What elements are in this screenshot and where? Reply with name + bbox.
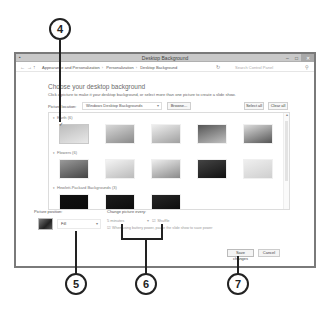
chevron-down-icon: ▾: [147, 217, 149, 224]
wallpaper-thumbnail[interactable]: ✓: [59, 124, 89, 144]
picture-location-dropdown[interactable]: Windows Desktop Backgrounds ▾: [82, 102, 162, 110]
wallpaper-thumbnail[interactable]: [105, 159, 135, 179]
wallpaper-thumbnail[interactable]: [243, 159, 273, 179]
interval-value: 5 minutes: [107, 218, 124, 223]
wallpaper-thumbnail[interactable]: [59, 159, 89, 179]
refresh-icon[interactable]: ↻: [216, 63, 220, 72]
picture-location-value: Windows Desktop Backgrounds: [86, 103, 142, 108]
picture-position-value: Fill: [61, 221, 66, 226]
callout-5: 5: [65, 273, 87, 295]
scrollbar-thumb[interactable]: [285, 121, 288, 181]
change-interval-dropdown[interactable]: 5 minutes ▾: [107, 217, 149, 224]
wallpaper-thumbnail[interactable]: [105, 194, 135, 210]
breadcrumb-item[interactable]: Appearance and Personalization: [42, 65, 100, 70]
close-button[interactable]: ✕: [301, 54, 314, 62]
wallpaper-thumbnail[interactable]: [151, 124, 181, 144]
group-name: Hewlett-Packard Backgrounds (3): [57, 185, 117, 190]
cancel-button[interactable]: Cancel: [258, 249, 280, 257]
clear-all-button[interactable]: Clear all: [268, 102, 288, 110]
checkbox-icon: ☑: [152, 218, 156, 223]
callout-6-leader-left: [121, 224, 123, 239]
wallpaper-thumbnail[interactable]: [151, 159, 181, 179]
callout-6: 6: [135, 273, 157, 295]
callout-4-leader: [59, 40, 61, 122]
position-preview: [38, 218, 53, 230]
wallpaper-thumbnail[interactable]: [243, 124, 273, 144]
breadcrumb-item[interactable]: Personalization: [106, 65, 133, 70]
chevron-down-icon: ▾: [157, 103, 159, 109]
callout-6-leader-right: [161, 224, 163, 239]
picture-location-label: Picture location:: [48, 103, 76, 110]
maximize-button[interactable]: □: [292, 54, 301, 62]
minimize-button[interactable]: –: [283, 54, 292, 62]
up-arrow-icon[interactable]: ↑: [33, 64, 36, 71]
group-name: Flowers (6): [57, 150, 77, 155]
picture-position-dropdown[interactable]: Fill ▾: [57, 219, 101, 229]
picture-position-label: Picture position:: [34, 209, 62, 214]
checkbox-icon: ☑: [107, 226, 111, 230]
breadcrumb: Appearance and Personalization› Personal…: [42, 63, 177, 72]
wallpaper-thumbnail[interactable]: [197, 124, 227, 144]
gallery-scrollbar[interactable]: ▴: [283, 113, 289, 209]
change-picture-label: Change picture every:: [107, 209, 146, 214]
wallpaper-thumbnail[interactable]: [105, 124, 135, 144]
forward-arrow-icon[interactable]: →: [27, 64, 32, 71]
scroll-up-icon[interactable]: ▴: [284, 113, 289, 117]
search-icon: ⚲: [305, 65, 309, 71]
back-arrow-icon[interactable]: ←: [20, 64, 25, 71]
page-subtitle: Click a picture to make it your desktop …: [48, 92, 236, 97]
page-title: Choose your desktop background: [48, 83, 145, 90]
gallery-group-header[interactable]: ▾Flowers (6): [53, 150, 77, 156]
wallpaper-thumbnail[interactable]: [197, 159, 227, 179]
breadcrumb-item[interactable]: Desktop Background: [140, 65, 177, 70]
search-input[interactable]: Search Control Panel ⚲: [224, 64, 312, 71]
wallpaper-thumbnail[interactable]: [151, 194, 181, 210]
callout-4: 4: [49, 18, 71, 40]
select-all-button[interactable]: Select all: [244, 102, 264, 110]
callout-7: 7: [227, 273, 249, 295]
gallery-group-header[interactable]: ▾Hewlett-Packard Backgrounds (3): [53, 185, 117, 191]
shuffle-checkbox[interactable]: ☑ Shuffle: [152, 217, 170, 224]
callout-6-bracket: [121, 238, 163, 240]
save-changes-button[interactable]: Save changes: [227, 249, 254, 257]
picture-gallery: ▴ ▾Earth (6)✓▾Flowers (6)▾Hewlett-Packar…: [48, 112, 290, 210]
browse-button[interactable]: Browse...: [167, 102, 191, 110]
wallpaper-thumbnail[interactable]: [59, 194, 89, 210]
shuffle-label: Shuffle: [157, 218, 169, 223]
search-placeholder: Search Control Panel: [235, 65, 273, 70]
chevron-down-icon: ▾: [96, 220, 98, 228]
